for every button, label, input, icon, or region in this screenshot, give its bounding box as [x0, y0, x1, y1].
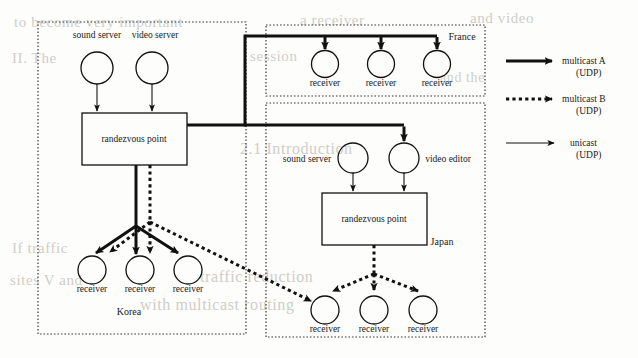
korea-receiver-node-3	[174, 256, 202, 284]
japan-receiver-node-3	[409, 296, 437, 324]
korea-video-server-node	[136, 52, 168, 84]
korea-sound-server-node	[81, 52, 113, 84]
france-region-label: France	[448, 31, 476, 42]
legend-label-multicast-a: multicast A	[562, 56, 606, 66]
legend-sublabel-multicast-a: (UDP)	[576, 68, 601, 79]
korea-receiver-node-2	[126, 256, 154, 284]
japan-arrow-1	[333, 274, 374, 291]
korea-region-label: Korea	[117, 306, 142, 317]
legend-sublabel-unicast: (UDP)	[576, 150, 601, 161]
korea-receiver-label-1: receiver	[77, 284, 108, 294]
legend-label-unicast: unicast	[570, 138, 597, 148]
korea-receiver-label-3: receiver	[173, 284, 204, 294]
japan-receiver-label-2: receiver	[359, 324, 390, 334]
korea-rendezvous-label: randezvous point	[101, 134, 167, 144]
japan-receiver-node-1	[311, 296, 339, 324]
france-receiver-label-1: receiver	[310, 78, 341, 88]
france-receiver-label-2: receiver	[366, 78, 397, 88]
japan-receiver-node-2	[360, 296, 388, 324]
france-receiver-label-3: receiver	[422, 78, 453, 88]
legend-sublabel-multicast-b: (UDP)	[576, 106, 601, 117]
japan-rendezvous-label: randezvous point	[341, 214, 407, 224]
japan-sound-server-label: sound server	[283, 154, 332, 164]
legend	[506, 61, 554, 143]
japan-video-editor-label: video editor	[425, 154, 471, 164]
japan-video-editor-node	[389, 143, 419, 173]
korea-arrow-a3	[136, 226, 178, 253]
korea-receiver-label-2: receiver	[125, 284, 156, 294]
trunk-to-france	[245, 36, 437, 127]
japan-region-label: Japan	[431, 236, 454, 247]
korea-receiver-node-1	[78, 256, 106, 284]
france-receiver-node-3	[424, 51, 451, 78]
france-receiver-node-2	[368, 51, 395, 78]
japan-receiver-label-1: receiver	[310, 324, 341, 334]
korea-video-server-label: video server	[132, 30, 180, 40]
korea-arrow-a1	[96, 226, 136, 253]
france-receiver-node-1	[312, 51, 339, 78]
legend-label-multicast-b: multicast B	[562, 94, 606, 104]
network-diagram: sound server video server randezvous poi…	[0, 0, 638, 358]
japan-sound-server-node	[338, 143, 368, 173]
korea-arrow-b1	[110, 222, 150, 252]
japan-arrow-3	[374, 274, 418, 291]
figure-page: to become very importanta receiverand vi…	[0, 0, 638, 358]
japan-receiver-label-3: receiver	[408, 324, 439, 334]
korea-sound-server-label: sound server	[73, 30, 122, 40]
